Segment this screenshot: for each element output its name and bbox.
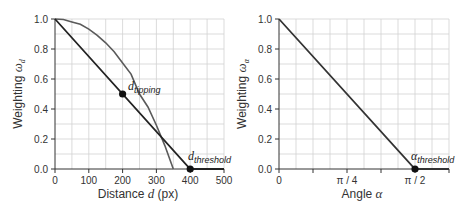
- y-tick-label: 0.8: [258, 44, 272, 55]
- threshold-point-marker-left: [187, 165, 194, 172]
- x-tick-label: π / 2: [405, 175, 426, 186]
- x-axis-title-right: Angle α: [342, 186, 384, 201]
- figure: 0.0 0.2 0.4 0.6 0.8 1.0 0 100 200 300 40…: [0, 0, 470, 211]
- x-tick-label: 0: [276, 175, 282, 186]
- grid-right: [279, 19, 449, 169]
- y-tick-label: 0.2: [258, 134, 272, 145]
- y-tick-label: 0.6: [258, 74, 272, 85]
- y-tick-label: 1.0: [258, 14, 272, 25]
- y-tick-label: 0.0: [258, 164, 272, 175]
- y-tick-label: 0.8: [34, 44, 48, 55]
- x-tick-label: 0: [52, 175, 58, 186]
- threshold-point-marker-right: [411, 165, 418, 172]
- x-tick-labels-right: 0 π / 4 π / 2: [276, 175, 426, 186]
- y-tick-labels-left: 0.0 0.2 0.4 0.6 0.8 1.0: [34, 14, 48, 175]
- y-axis-title-left: Weighting ωd: [10, 58, 27, 129]
- y-tick-label: 1.0: [34, 14, 48, 25]
- y-ticks-right: [275, 19, 279, 169]
- y-tick-label: 0.0: [34, 164, 48, 175]
- chart-distance-weighting: 0.0 0.2 0.4 0.6 0.8 1.0 0 100 200 300 40…: [10, 14, 233, 202]
- annotation-d-threshold: dthreshold: [188, 149, 232, 165]
- x-axis-title-left: Distance d (px): [98, 186, 179, 201]
- x-tick-label: 100: [80, 175, 97, 186]
- x-tick-label: 200: [114, 175, 131, 186]
- y-tick-label: 0.4: [34, 104, 48, 115]
- y-ticks-left: [51, 19, 55, 169]
- y-axis-title-right: Weighting ωα: [234, 58, 251, 129]
- y-tick-label: 0.6: [34, 74, 48, 85]
- y-tick-label: 0.2: [34, 134, 48, 145]
- x-tick-label: π / 4: [337, 175, 358, 186]
- y-tick-label: 0.4: [258, 104, 272, 115]
- chart-angle-weighting: 0.0 0.2 0.4 0.6 0.8 1.0 0 π / 4 π / 2 An…: [234, 14, 455, 202]
- y-tick-labels-right: 0.0 0.2 0.4 0.6 0.8 1.0: [258, 14, 272, 175]
- x-tick-label: 400: [182, 175, 199, 186]
- x-tick-labels-left: 0 100 200 300 400 500: [52, 175, 233, 186]
- annotation-d-tipping: dtipping: [128, 79, 161, 95]
- x-tick-label: 300: [148, 175, 165, 186]
- x-tick-label: 500: [216, 175, 233, 186]
- tipping-point-marker: [119, 90, 126, 97]
